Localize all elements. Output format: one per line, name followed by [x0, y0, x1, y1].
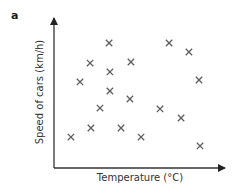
x-marker-icon	[106, 40, 112, 46]
x-marker-icon	[87, 60, 93, 66]
x-marker-icon	[127, 96, 133, 102]
y-axis-label: Speed of cars (km/h)	[34, 40, 45, 145]
x-marker-icon	[128, 59, 134, 65]
x-marker-icon	[118, 125, 124, 131]
x-marker-icon	[197, 143, 203, 149]
x-marker-icon	[97, 105, 103, 111]
x-marker-icon	[107, 88, 113, 94]
x-marker-icon	[88, 125, 94, 131]
data-points	[68, 40, 204, 149]
x-marker-icon	[68, 134, 74, 140]
x-marker-icon	[178, 115, 184, 121]
x-axis-label: Temperature (°C)	[54, 172, 226, 183]
panel-label: a	[11, 9, 18, 22]
x-marker-icon	[77, 79, 83, 85]
x-marker-icon	[186, 49, 192, 55]
x-marker-icon	[196, 77, 202, 83]
x-marker-icon	[157, 106, 163, 112]
x-marker-icon	[166, 40, 172, 46]
x-marker-icon	[138, 134, 144, 140]
x-marker-icon	[107, 69, 113, 75]
